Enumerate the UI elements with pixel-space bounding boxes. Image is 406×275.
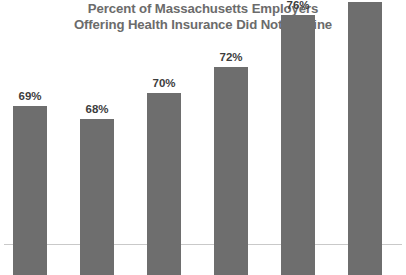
bar-group-2005: 70% 2005: [147, 30, 181, 275]
bar-2005[interactable]: [147, 93, 181, 275]
bar-2003[interactable]: [80, 119, 114, 275]
bar-value-label-2005: 70%: [139, 77, 189, 90]
bar-value-label-2003: 68%: [72, 103, 122, 116]
plot-area: 69% 2001 68% 2003 70% 2005 72% 2007 76% …: [0, 0, 406, 275]
bar-2001[interactable]: [13, 106, 47, 275]
bar-group-2003: 68% 2003: [80, 30, 114, 275]
bar-group-2007: 72% 2007: [214, 30, 248, 275]
bar-2009[interactable]: [281, 15, 315, 275]
bar-group-2010: 77% 2010: [348, 30, 382, 275]
bar-2010[interactable]: [348, 2, 382, 275]
bar-value-label-2001: 69%: [5, 90, 55, 103]
bar-chart: Percent of Massachusetts Employers Offer…: [0, 0, 406, 275]
x-axis-line: [4, 244, 402, 245]
bar-group-2009: 76% 2009: [281, 30, 315, 275]
bar-group-2001: 69% 2001: [13, 30, 47, 275]
bar-value-label-2009: 76%: [273, 0, 323, 12]
bar-value-label-2007: 72%: [206, 51, 256, 64]
bar-2007[interactable]: [214, 67, 248, 275]
